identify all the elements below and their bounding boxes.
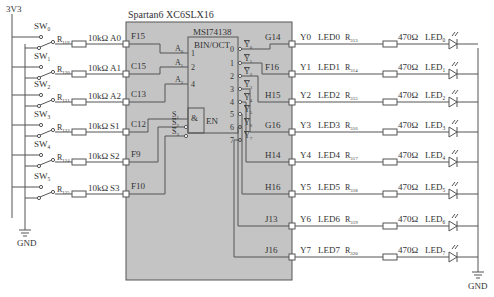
led-row: J16Y7LED7R320470ΩLED7 <box>265 245 478 262</box>
led-row: J13Y6LED6R319470ΩLED6 <box>265 214 478 231</box>
led-label: LED2 <box>425 90 446 101</box>
signal-label: Y0 <box>300 32 311 42</box>
led-net-label: LED4 <box>318 150 340 160</box>
io-pin <box>289 41 295 47</box>
resistor-icon <box>383 99 397 105</box>
resistor-icon <box>72 99 86 105</box>
signal-label: Y1 <box>300 62 311 72</box>
switch-label: SW1 <box>34 51 51 62</box>
resistor-icon <box>72 41 86 47</box>
resistor-value: 10kΩ <box>88 183 109 193</box>
resistor-value: 470Ω <box>398 120 419 130</box>
decoder-function: BIN/OCT <box>194 40 231 50</box>
resistor-icon <box>72 159 86 165</box>
ground-icon-right <box>472 272 484 278</box>
decoder-out-num: 4 <box>230 98 234 107</box>
led-net-label: LED7 <box>318 245 340 255</box>
fpga-pin-label: F9 <box>131 149 141 159</box>
switch-label: SW5 <box>34 171 51 182</box>
resistor-icon <box>383 223 397 229</box>
resistor-value: 470Ω <box>398 245 419 255</box>
resistor-value: 470Ω <box>398 150 419 160</box>
decoder-and: & <box>191 113 198 123</box>
decoder-out-num: 3 <box>230 85 234 94</box>
fpga-pin-label: H14 <box>265 150 281 160</box>
resistor-label: R314 <box>345 63 358 73</box>
resistor-icon <box>383 159 397 165</box>
led-label: LED1 <box>425 62 446 73</box>
fpga-pin-label: F10 <box>131 181 146 191</box>
led-label: LED3 <box>425 120 446 131</box>
resistor-label: R315 <box>345 91 358 101</box>
resistor-label: R316 <box>345 121 358 131</box>
circuit-schematic: Spartan6 XC6SLX16 MSI74138 BIN/OCT & EN … <box>0 0 494 297</box>
fpga-pin-label: C13 <box>131 89 147 99</box>
led-icon <box>449 62 458 79</box>
io-pin <box>123 99 129 105</box>
ground-label-left: GND <box>17 238 37 248</box>
signal-label: S3 <box>110 183 120 193</box>
signal-label: Y2 <box>300 90 311 100</box>
switch-toggle[interactable] <box>51 98 54 101</box>
resistor-value: 10kΩ <box>88 151 109 161</box>
switch-toggle[interactable] <box>51 40 54 43</box>
led-label: LED4 <box>425 150 446 161</box>
led-net-label: LED1 <box>318 62 340 72</box>
led-label: LED5 <box>425 182 446 193</box>
led-icon <box>449 90 458 107</box>
resistor-icon <box>383 254 397 260</box>
led-row: H16Y5LED5R318470ΩLED5 <box>265 182 478 199</box>
io-pin <box>123 159 129 165</box>
signal-label: A2 <box>110 91 121 101</box>
resistor-value: 470Ω <box>398 62 419 72</box>
signal-label: Y3 <box>300 120 311 130</box>
led-row: F16Y1LED1R314470ΩLED1 <box>265 62 478 79</box>
led-net-label: LED6 <box>318 214 340 224</box>
fpga-pin-label: J13 <box>265 214 278 224</box>
resistor-label: R313 <box>345 33 358 43</box>
led-icon <box>449 32 458 49</box>
signal-label: Y6 <box>300 214 311 224</box>
resistor-icon <box>383 129 397 135</box>
fpga-pin-label: F16 <box>265 62 280 72</box>
led-net-label: LED5 <box>318 182 340 192</box>
resistor-icon <box>72 129 86 135</box>
io-pin <box>289 99 295 105</box>
switch-toggle[interactable] <box>51 128 54 131</box>
signal-label: Y5 <box>300 182 311 192</box>
io-pin <box>289 159 295 165</box>
led-icon <box>449 245 458 262</box>
io-pin <box>289 254 295 260</box>
resistor-label: R317 <box>345 151 358 161</box>
led-label: LED6 <box>425 214 446 225</box>
switch-toggle[interactable] <box>51 70 54 73</box>
resistor-value: 470Ω <box>398 182 419 192</box>
led-icon <box>449 182 458 199</box>
io-pin <box>123 71 129 77</box>
decoder-addr-pin: 4 <box>191 80 195 89</box>
io-pin <box>123 41 129 47</box>
decoder-out-num: 5 <box>230 110 234 119</box>
switch-toggle[interactable] <box>51 158 54 161</box>
switch-label: SW4 <box>34 139 51 150</box>
signal-label: A0 <box>110 33 121 43</box>
decoder-out-num: 1 <box>230 59 234 68</box>
decoder-en: EN <box>206 116 218 126</box>
resistor-value: 10kΩ <box>88 33 109 43</box>
supply-label: 3V3 <box>6 4 22 14</box>
resistor-value: 470Ω <box>398 90 419 100</box>
resistor-icon <box>72 191 86 197</box>
fpga-title: Spartan6 XC6SLX16 <box>128 9 214 20</box>
ground-label-right: GND <box>468 281 488 291</box>
resistor-icon <box>72 71 86 77</box>
signal-label: S1 <box>110 121 120 131</box>
resistor-icon <box>383 71 397 77</box>
signal-label: S2 <box>110 151 120 161</box>
io-pin <box>289 191 295 197</box>
signal-label: Y7 <box>300 245 311 255</box>
fpga-pin-label: C15 <box>131 61 147 71</box>
switch-toggle[interactable] <box>51 190 54 193</box>
led-row: G14Y0LED0R313470ΩLED0 <box>265 32 478 49</box>
resistor-value: 10kΩ <box>88 63 109 73</box>
switch-label: SW2 <box>34 79 51 90</box>
